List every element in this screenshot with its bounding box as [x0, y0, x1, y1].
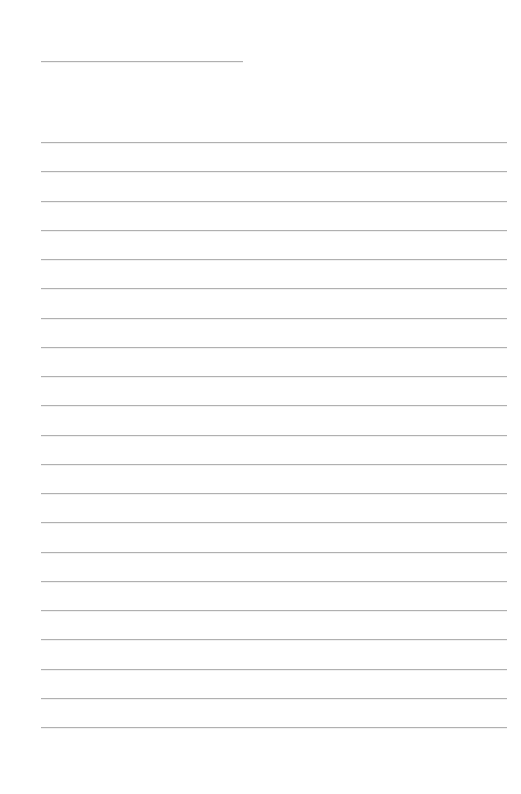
ruled-line [41, 259, 507, 260]
ruled-lines-group [0, 0, 521, 794]
ruled-line [41, 347, 507, 348]
ruled-line [41, 142, 507, 143]
ruled-line [41, 669, 507, 670]
ruled-line [41, 727, 507, 728]
ruled-line [41, 288, 507, 289]
ruled-line [41, 230, 507, 231]
ruled-line [41, 405, 507, 406]
ruled-line [41, 376, 507, 377]
ruled-line [41, 639, 507, 640]
ruled-line [41, 435, 507, 436]
lined-paper-page [0, 0, 521, 794]
ruled-line [41, 552, 507, 553]
ruled-line [41, 581, 507, 582]
ruled-line [41, 698, 507, 699]
ruled-line [41, 464, 507, 465]
ruled-line [41, 522, 507, 523]
ruled-line [41, 171, 507, 172]
ruled-line [41, 610, 507, 611]
ruled-line [41, 201, 507, 202]
ruled-line [41, 493, 507, 494]
ruled-line [41, 318, 507, 319]
